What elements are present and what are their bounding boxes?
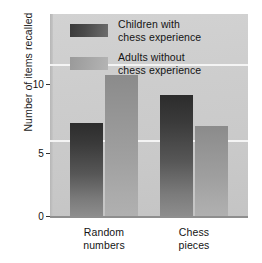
legend-label-children-line2: chess experience <box>118 31 201 44</box>
x-category-chess-pieces-line1: Chess <box>154 226 234 239</box>
legend-label-children-line1: Children with <box>118 18 201 31</box>
legend-label-adults-line2: chess experience <box>118 64 201 77</box>
x-category-random-numbers-line1: Random <box>64 226 144 239</box>
y-tick-label-10: 10 <box>22 79 44 90</box>
legend-label-children: Children with chess experience <box>118 18 201 43</box>
legend-swatch-children <box>70 24 108 37</box>
x-category-random-numbers-line2: numbers <box>64 239 144 252</box>
y-tick-label-5: 5 <box>22 148 44 159</box>
legend-label-adults-line1: Adults without <box>118 51 201 64</box>
bar-adults-chess-pieces <box>195 126 228 216</box>
y-axis-label: Number of items recalled <box>22 0 34 152</box>
x-axis-baseline <box>50 216 248 218</box>
legend-label-adults: Adults without chess experience <box>118 51 201 76</box>
y-tick-label-0: 0 <box>22 211 44 222</box>
bar-adults-random-numbers <box>105 75 138 216</box>
plot-left-edge <box>50 14 53 218</box>
bar-children-chess-pieces <box>160 95 193 217</box>
bar-children-random-numbers <box>70 123 103 216</box>
x-category-chess-pieces-line2: pieces <box>154 239 234 252</box>
x-category-label-random-numbers: Random numbers <box>64 226 144 251</box>
plot-area: Children with chess experience Adults wi… <box>50 14 248 218</box>
x-category-label-chess-pieces: Chess pieces <box>154 226 234 251</box>
legend-swatch-adults <box>70 57 108 70</box>
bar-chart: Number of items recalled 10 5 0 Children… <box>0 0 262 263</box>
